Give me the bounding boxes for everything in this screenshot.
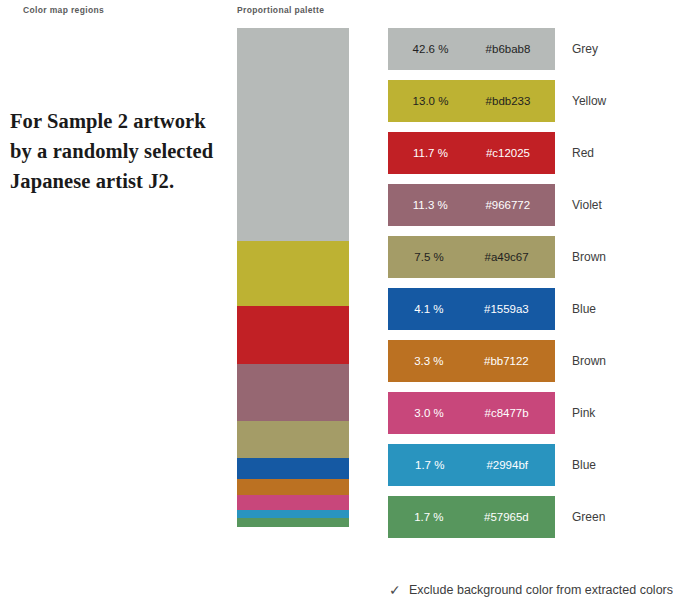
palette-bar-segment	[237, 518, 349, 526]
swatch-color-name: Green	[572, 510, 605, 524]
color-swatch[interactable]: 4.1 %#1559a3	[388, 288, 555, 330]
palette-row[interactable]: 3.0 %#c8477bPink	[388, 392, 673, 434]
color-swatch[interactable]: 1.7 %#57965d	[388, 496, 555, 538]
swatch-hex-code: #1559a3	[484, 303, 529, 315]
palette-bar-segment	[237, 510, 349, 518]
swatch-percentage: 11.7 %	[413, 147, 448, 159]
checkmark-icon: ✓	[389, 583, 401, 597]
palette-row[interactable]: 1.7 %#2994bfBlue	[388, 444, 673, 486]
swatch-percentage: 4.1 %	[414, 303, 443, 315]
palette-bar-segment	[237, 421, 349, 458]
swatch-color-name: Yellow	[572, 94, 606, 108]
proportional-palette-bar	[237, 28, 349, 527]
column-header-proportional-palette: Proportional palette	[237, 5, 324, 15]
swatch-hex-code: #b6bab8	[486, 43, 531, 55]
swatch-percentage: 13.0 %	[413, 95, 449, 107]
palette-row[interactable]: 42.6 %#b6bab8Grey	[388, 28, 673, 70]
palette-bar-segment	[237, 241, 349, 306]
swatch-color-name: Red	[572, 146, 594, 160]
palette-row[interactable]: 13.0 %#bdb233Yellow	[388, 80, 673, 122]
color-swatch[interactable]: 7.5 %#a49c67	[388, 236, 555, 278]
swatch-percentage: 3.3 %	[414, 355, 443, 367]
swatch-color-name: Blue	[572, 302, 596, 316]
palette-bar-segment	[237, 306, 349, 364]
swatch-hex-code: #2994bf	[486, 459, 528, 471]
swatch-hex-code: #a49c67	[485, 251, 529, 263]
column-header-color-map-regions: Color map regions	[23, 5, 104, 15]
swatch-hex-code: #c12025	[486, 147, 530, 159]
swatch-hex-code: #57965d	[484, 511, 529, 523]
swatch-color-name: Brown	[572, 354, 606, 368]
exclude-background-option[interactable]: ✓ Exclude background color from extracte…	[389, 583, 673, 597]
swatch-hex-code: #bdb233	[486, 95, 531, 107]
swatch-color-name: Brown	[572, 250, 606, 264]
swatch-percentage: 1.7 %	[414, 511, 443, 523]
color-swatch[interactable]: 3.0 %#c8477b	[388, 392, 555, 434]
sample-caption: For Sample 2 artwork by a randomly selec…	[10, 106, 225, 196]
swatch-percentage: 3.0 %	[414, 407, 443, 419]
swatch-percentage: 1.7 %	[415, 459, 444, 471]
swatch-hex-code: #bb7122	[484, 355, 529, 367]
swatch-color-name: Pink	[572, 406, 595, 420]
palette-row[interactable]: 4.1 %#1559a3Blue	[388, 288, 673, 330]
swatch-percentage: 42.6 %	[413, 43, 449, 55]
palette-bar-segment	[237, 28, 349, 241]
palette-row[interactable]: 3.3 %#bb7122Brown	[388, 340, 673, 382]
color-swatch[interactable]: 3.3 %#bb7122	[388, 340, 555, 382]
swatch-percentage: 7.5 %	[414, 251, 443, 263]
swatch-hex-code: #c8477b	[485, 407, 529, 419]
palette-bar-segment	[237, 479, 349, 495]
palette-swatch-list: 42.6 %#b6bab8Grey13.0 %#bdb233Yellow11.7…	[388, 28, 673, 548]
color-swatch[interactable]: 11.7 %#c12025	[388, 132, 555, 174]
palette-row[interactable]: 11.3 %#966772Violet	[388, 184, 673, 226]
swatch-hex-code: #966772	[485, 199, 530, 211]
palette-bar-segment	[237, 495, 349, 510]
exclude-background-label: Exclude background color from extracted …	[409, 583, 673, 597]
swatch-color-name: Grey	[572, 42, 598, 56]
swatch-color-name: Violet	[572, 198, 602, 212]
color-swatch[interactable]: 42.6 %#b6bab8	[388, 28, 555, 70]
color-swatch[interactable]: 11.3 %#966772	[388, 184, 555, 226]
palette-row[interactable]: 1.7 %#57965dGreen	[388, 496, 673, 538]
color-swatch[interactable]: 1.7 %#2994bf	[388, 444, 555, 486]
swatch-color-name: Blue	[572, 458, 596, 472]
palette-row[interactable]: 11.7 %#c12025Red	[388, 132, 673, 174]
swatch-percentage: 11.3 %	[413, 199, 448, 211]
color-swatch[interactable]: 13.0 %#bdb233	[388, 80, 555, 122]
palette-bar-segment	[237, 364, 349, 420]
palette-row[interactable]: 7.5 %#a49c67Brown	[388, 236, 673, 278]
palette-bar-segment	[237, 458, 349, 478]
